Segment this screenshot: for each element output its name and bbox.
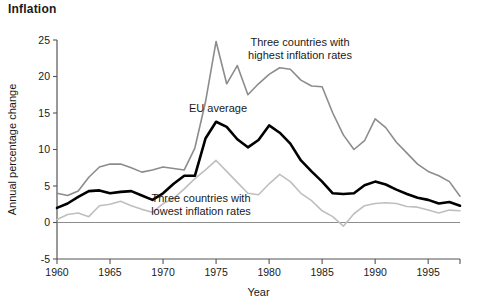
- x-tick-label: 1960: [45, 266, 69, 278]
- inflation-chart: Inflation -50510152025 19601965197019751…: [0, 0, 485, 304]
- chart-plot-area: -50510152025 196019651970197519801985199…: [0, 0, 485, 304]
- y-tick-label: 25: [38, 34, 50, 46]
- x-tick-label: 1990: [363, 266, 387, 278]
- y-axis-ticks: -50510152025: [38, 34, 57, 265]
- axis-lines: [57, 40, 460, 259]
- x-tick-label: 1970: [151, 266, 175, 278]
- y-tick-label: 20: [38, 70, 50, 82]
- x-axis-title: Year: [247, 286, 270, 298]
- series-line-highest-inflation: [57, 41, 460, 196]
- series-annotations: Three countries withhighest inflation ra…: [151, 36, 352, 217]
- y-axis-title: Annual percentage change: [6, 84, 18, 216]
- y-tick-label: -5: [41, 253, 50, 265]
- x-tick-label: 1980: [257, 266, 281, 278]
- annot-eu: EU average: [189, 102, 247, 114]
- y-tick-label: 5: [44, 180, 50, 192]
- y-tick-label: 15: [38, 107, 50, 119]
- y-tick-label: 0: [44, 216, 50, 228]
- x-axis-ticks: 19601965197019751980198519901995: [45, 259, 460, 278]
- x-tick-label: 1965: [98, 266, 122, 278]
- x-tick-label: 1995: [417, 266, 441, 278]
- annot-high: Three countries withhighest inflation ra…: [248, 36, 352, 61]
- y-tick-label: 10: [38, 143, 50, 155]
- x-tick-label: 1985: [310, 266, 334, 278]
- data-series-group: [57, 41, 460, 226]
- x-tick-label: 1975: [204, 266, 228, 278]
- annot-low: Three countries withlowest inflation rat…: [151, 192, 251, 217]
